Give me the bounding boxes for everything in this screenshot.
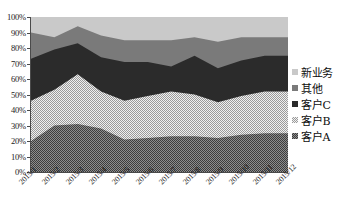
legend-label: 客户C <box>301 96 331 112</box>
legend-item-customer-c[interactable]: 客户C <box>292 96 342 112</box>
legend-label: 客户A <box>301 128 330 144</box>
y-tick-label: 70% <box>11 59 26 69</box>
y-tick-label: 40% <box>11 105 26 115</box>
legend-swatch-icon <box>292 85 298 91</box>
legend-swatch-icon <box>292 69 298 75</box>
legend-swatch-icon <box>292 117 298 123</box>
plot-svg <box>31 17 288 172</box>
legend-item-customer-a[interactable]: 客户A <box>292 128 342 144</box>
y-axis-labels: 0%10%20%30%40%50%60%70%80%90%100% <box>0 10 28 180</box>
stacked-area-chart: 0%10%20%30%40%50%60%70%80%90%100% 2015/1… <box>0 0 342 214</box>
legend-label: 新业务 <box>301 64 333 80</box>
y-tick-label: 30% <box>11 121 26 131</box>
legend-label: 客户B <box>301 112 330 128</box>
y-tick-label: 60% <box>11 74 26 84</box>
x-axis-labels: 2015/12015/22015/32015/42015/52015/62015… <box>0 174 342 214</box>
legend-item-new-business[interactable]: 新业务 <box>292 64 342 80</box>
y-tick-label: 10% <box>11 152 26 162</box>
x-axis-line <box>30 172 288 173</box>
legend-label: 其他 <box>301 80 322 96</box>
y-tick-label: 20% <box>11 136 26 146</box>
y-tick-label: 100% <box>7 12 26 22</box>
legend-item-customer-b[interactable]: 客户B <box>292 112 342 128</box>
y-tick-label: 50% <box>11 90 26 100</box>
legend-item-other[interactable]: 其他 <box>292 80 342 96</box>
y-tick-label: 90% <box>11 28 26 38</box>
legend-swatch-icon <box>292 101 298 107</box>
plot-area <box>31 17 288 172</box>
y-tick-label: 80% <box>11 43 26 53</box>
chart-legend: 新业务其他客户C客户B客户A <box>292 64 342 144</box>
legend-swatch-icon <box>292 133 298 139</box>
